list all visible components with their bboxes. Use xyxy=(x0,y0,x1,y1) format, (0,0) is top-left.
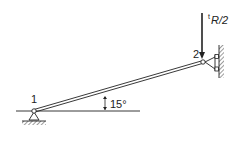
truss-diagram: 1 15° 2 t R/2 xyxy=(0,0,244,142)
load-label-superscript: t xyxy=(208,13,210,20)
node-2-hinge xyxy=(201,60,205,64)
load-arrow-icon xyxy=(199,13,205,59)
node-1-label: 1 xyxy=(31,93,37,105)
load-label: R/2 xyxy=(211,14,228,26)
node-1-hinge xyxy=(32,109,36,113)
pin-support-icon xyxy=(22,112,46,125)
node-2-label: 2 xyxy=(193,48,199,60)
roller-support-icon xyxy=(205,45,224,78)
angle-dimension-arrow xyxy=(103,96,107,110)
angle-label: 15° xyxy=(110,98,127,110)
